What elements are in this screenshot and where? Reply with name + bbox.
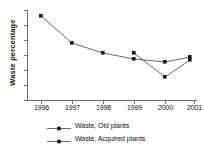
x-tick-label-1996: 1996 [29, 104, 55, 111]
data-point [132, 51, 136, 55]
y-axis-ticks [24, 11, 28, 101]
legend-entry-old-plants: Waste, Old plants [46, 119, 196, 132]
data-point [39, 14, 43, 18]
x-tick-label-2001: 2001 [182, 104, 204, 111]
series-line-old-plants [41, 16, 190, 62]
data-point [101, 51, 105, 55]
legend-label-old-plants: Waste, Old plants [72, 122, 129, 129]
series-waste-acquired-plants [132, 51, 192, 79]
chart-legend: Waste, Old plants Waste, Acquired plants [46, 119, 196, 145]
x-tick-label-1997: 1997 [60, 104, 86, 111]
data-point [188, 58, 192, 62]
data-point [132, 57, 136, 61]
series-waste-old-plants [39, 14, 192, 64]
legend-entry-acquired-plants: Waste, Acquired plants [46, 132, 196, 145]
series-line-acquired-plants [134, 53, 190, 77]
chart-figure: Waste percentage [0, 0, 203, 150]
x-tick-label-2000: 2000 [153, 104, 179, 111]
x-tick-label-1998: 1998 [91, 104, 117, 111]
data-point [163, 60, 167, 64]
x-tick-label-1999: 1999 [122, 104, 148, 111]
legend-marker-old-plants [46, 120, 72, 131]
legend-marker-acquired-plants [46, 133, 72, 144]
legend-label-acquired-plants: Waste, Acquired plants [72, 135, 145, 142]
series-markers-old-plants [39, 14, 192, 64]
data-point [163, 75, 167, 79]
data-point [70, 41, 74, 45]
